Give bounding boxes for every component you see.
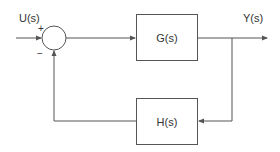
feedback-return-line: [54, 51, 136, 121]
feedback-block-h: H(s): [136, 98, 198, 145]
output-label: Y(s): [243, 13, 263, 24]
forward-block-g: G(s): [136, 14, 198, 61]
forward-block-label: G(s): [156, 32, 177, 44]
minus-sign: −: [37, 49, 43, 59]
input-label: U(s): [19, 13, 40, 24]
summing-junction: [42, 26, 66, 50]
feedback-branch-line: [199, 38, 232, 121]
plus-sign: +: [38, 24, 44, 34]
feedback-block-label: H(s): [157, 116, 178, 128]
